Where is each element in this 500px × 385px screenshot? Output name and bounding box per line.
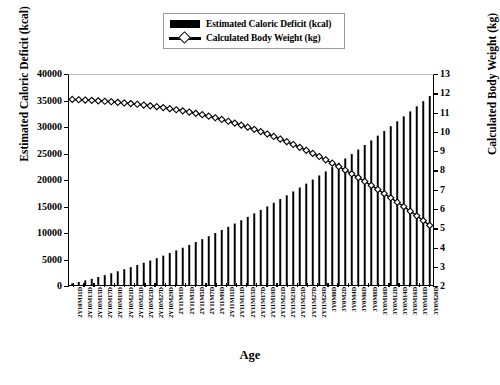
bar	[221, 230, 223, 285]
bar	[78, 282, 80, 285]
data-point-marker	[245, 124, 251, 130]
bar	[253, 213, 255, 285]
bar	[331, 167, 333, 285]
x-axis-tick-label: 2Y10M21D	[127, 287, 134, 318]
x-axis-tick-mark	[276, 283, 277, 287]
data-point-marker	[264, 131, 270, 137]
bar	[429, 96, 431, 285]
bar	[156, 258, 158, 285]
x-axis-tick-mark	[266, 283, 267, 287]
x-axis-tick-label: 2Y11M1D	[177, 287, 184, 315]
bar	[110, 273, 112, 285]
x-axis-tick-label: 2Y11M27D	[310, 287, 317, 318]
bar	[227, 227, 229, 285]
y-axis-right-tick-label: 5	[440, 223, 445, 233]
data-point-marker	[316, 153, 322, 159]
bar	[390, 126, 392, 285]
y-axis-right-tick-label: 6	[440, 204, 445, 214]
bar	[383, 131, 385, 285]
bar	[149, 260, 151, 285]
x-axis-tick-label: 2Y11M13D	[238, 287, 245, 318]
x-axis-tick-label: 3Y0M14D	[401, 287, 408, 315]
plot-inner	[69, 75, 433, 285]
data-point-marker	[251, 126, 257, 132]
y-axis-right-tick-label: 9	[440, 146, 445, 156]
bar	[208, 236, 210, 285]
x-axis-tick-label: 2Y11M25D	[299, 287, 306, 318]
bar	[234, 224, 236, 285]
x-axis-tick-label: 3Y0M0D	[330, 287, 337, 312]
data-point-marker	[173, 107, 179, 113]
data-point-marker	[154, 104, 160, 110]
x-axis-tick-label: 2Y11M3D	[188, 287, 195, 315]
x-axis-tick-mark	[104, 283, 105, 287]
data-point-marker	[199, 112, 205, 118]
y-axis-right-tick-label: 2	[440, 281, 445, 291]
bar	[143, 263, 145, 285]
x-axis-tick-mark	[114, 283, 115, 287]
x-axis-tick-mark	[165, 283, 166, 287]
x-axis-tick-mark	[154, 283, 155, 287]
x-axis-tick-label: 3Y0M10D	[381, 287, 388, 315]
x-axis-tick-mark	[398, 283, 399, 287]
data-point-marker	[277, 136, 283, 142]
y-axis-left-tick-label: 40000	[37, 69, 62, 79]
data-point-marker	[206, 113, 212, 119]
data-point-marker	[102, 98, 108, 104]
bar	[214, 233, 216, 285]
y-axis-right-tick-label: 10	[440, 127, 450, 137]
x-axis-tick-label: 3Y0M16D	[411, 287, 418, 315]
x-axis-tick-label: 2Y11M15D	[249, 287, 256, 318]
data-point-marker	[349, 171, 355, 177]
bar	[344, 158, 346, 285]
x-axis-tick-mark	[429, 283, 430, 287]
data-point-marker	[225, 118, 231, 124]
data-point-marker	[82, 97, 88, 103]
y-axis-right-tick-label: 13	[440, 69, 450, 79]
bar	[136, 265, 138, 285]
data-point-marker	[134, 101, 140, 107]
x-axis-tick-mark	[185, 283, 186, 287]
y-axis-right-tick-label: 12	[440, 88, 450, 98]
data-point-marker	[193, 110, 199, 116]
x-axis-tick-label: 3Y0M6D	[360, 287, 367, 312]
x-axis-title: Age	[0, 348, 500, 363]
x-axis-tick-mark	[256, 283, 257, 287]
y-axis-left-tick-label: 10000	[37, 228, 62, 238]
x-axis-tick-mark	[307, 283, 308, 287]
bar	[422, 101, 424, 285]
bar	[182, 248, 184, 285]
data-point-marker	[128, 100, 134, 106]
y-axis-left-tick-label: 20000	[37, 175, 62, 185]
x-axis-tick-label: 2Y10M23D	[137, 287, 144, 318]
x-axis-tick-label: 2Y10M17D	[106, 287, 113, 318]
data-point-marker	[160, 105, 166, 111]
x-axis-tick-label: 2Y11M17D	[259, 287, 266, 318]
x-axis-tick-mark	[246, 283, 247, 287]
x-axis-tick-mark	[358, 283, 359, 287]
x-axis-tick-label: 2Y10M13D	[86, 287, 93, 318]
data-point-marker	[303, 147, 309, 153]
x-axis-tick-label: 2Y10M15D	[96, 287, 103, 318]
filled-bar-swatch-icon	[168, 18, 202, 30]
data-point-marker	[212, 115, 218, 121]
y-axis-right-tick-label: 3	[440, 262, 445, 272]
data-point-marker	[186, 109, 192, 115]
x-axis-tick-mark	[287, 283, 288, 287]
x-axis-tick-layer: 2Y10M11D2Y10M13D2Y10M15D2Y10M17D2Y10M19D…	[68, 287, 434, 345]
data-point-marker	[108, 99, 114, 105]
bar	[299, 188, 301, 285]
x-axis-tick-label: 2Y11M21D	[279, 287, 286, 318]
x-axis-tick-mark	[73, 283, 74, 287]
data-point-marker	[284, 139, 290, 145]
chart-legend: Estimated Caloric Deficit (kcal) Calcula…	[163, 13, 345, 49]
bar	[195, 242, 197, 285]
bar	[292, 191, 294, 285]
bar	[403, 116, 405, 285]
x-axis-tick-label: 2Y10M19D	[116, 287, 123, 318]
bar	[169, 253, 171, 285]
x-axis-tick-mark	[317, 283, 318, 287]
bar	[305, 184, 307, 285]
x-axis-tick-label: 3Y0M4D	[350, 287, 357, 312]
bar	[377, 136, 379, 285]
